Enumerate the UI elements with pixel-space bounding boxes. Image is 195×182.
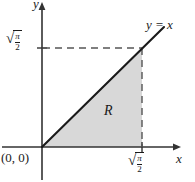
fraction-denominator: 2 (15, 42, 20, 52)
y-axis-label: y (33, 0, 39, 10)
y-axis-arrowhead (39, 2, 46, 10)
fraction-numerator: π (137, 154, 142, 163)
x-axis-label: x (176, 152, 182, 165)
math-figure: y x y = x R (0, 0) √ π 2 √ π 2 (0, 0, 195, 182)
y-tick-label: √ π 2 (6, 30, 22, 53)
fraction: π 2 (13, 30, 22, 53)
radical-sign-icon: √ (6, 31, 14, 46)
origin-label: (0, 0) (1, 151, 29, 164)
fraction: π 2 (135, 152, 144, 175)
x-tick-label: √ π 2 (128, 152, 144, 175)
line-equation-label: y = x (146, 18, 173, 31)
fraction-numerator: π (15, 32, 20, 41)
region-label: R (104, 104, 113, 118)
fraction-denominator: 2 (137, 164, 142, 174)
radical-sign-icon: √ (128, 153, 136, 168)
x-axis-arrowhead (173, 144, 181, 151)
